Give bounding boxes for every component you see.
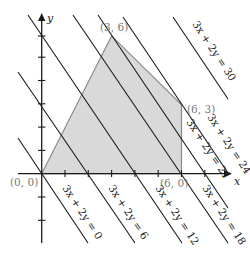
diagram-canvas: x y (0, 0) (3, 6) (6, 3) (6, 0) 3x + 2y … — [0, 0, 250, 262]
vertex-label-3-6: (3, 6) — [100, 21, 128, 33]
x-axis-label: x — [234, 175, 241, 188]
line-label-c30: 3x + 2y = 30 — [190, 18, 239, 83]
y-axis-label: y — [46, 12, 54, 25]
feasible-region — [42, 36, 182, 174]
vertex-label-0-0: (0, 0) — [10, 176, 38, 188]
lp-diagram: x y (0, 0) (3, 6) (6, 3) (6, 0) 3x + 2y … — [0, 0, 250, 262]
y-axis-arrow-icon — [38, 13, 45, 21]
line-label-c6: 3x + 2y = 6 — [106, 182, 151, 241]
